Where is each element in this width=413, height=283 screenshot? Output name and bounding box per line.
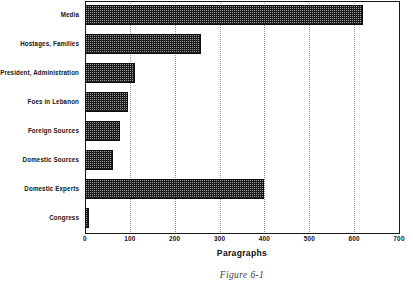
x-tick-label: 500	[304, 235, 315, 244]
bar	[85, 208, 89, 228]
category-label: Domestic Sources	[0, 155, 79, 163]
x-tick-label: 700	[393, 235, 404, 244]
bar	[85, 34, 201, 54]
category-label: President, Administration	[0, 69, 79, 77]
x-axis-title: Paragraphs	[85, 248, 399, 259]
category-label: Hostages, Families	[0, 40, 79, 48]
category-label: Foreign Sources	[0, 127, 79, 135]
bar	[85, 92, 128, 112]
bar	[85, 63, 135, 83]
x-tick-label: 300	[214, 235, 225, 244]
bar	[85, 150, 113, 170]
category-label: Domestic Experts	[0, 184, 79, 192]
x-tick-label: 200	[169, 235, 180, 244]
x-axis-tick-labels: 0100200300400500600700	[0, 235, 413, 247]
bar	[85, 5, 363, 25]
category-axis-labels: MediaHostages, FamiliesPresident, Admini…	[0, 0, 82, 232]
bar	[85, 179, 264, 199]
category-label: Foes in Lebanon	[0, 98, 79, 106]
x-tick-label: 400	[259, 235, 270, 244]
x-tick-label: 600	[349, 235, 360, 244]
figure-caption: Figure 6-1	[85, 270, 399, 283]
category-label: Media	[0, 11, 79, 19]
figure-container: MediaHostages, FamiliesPresident, Admini…	[0, 0, 413, 283]
x-tick-label: 100	[124, 235, 135, 244]
bar	[85, 121, 120, 141]
category-label: Congress	[0, 213, 79, 221]
x-tick-label: 0	[83, 235, 87, 244]
